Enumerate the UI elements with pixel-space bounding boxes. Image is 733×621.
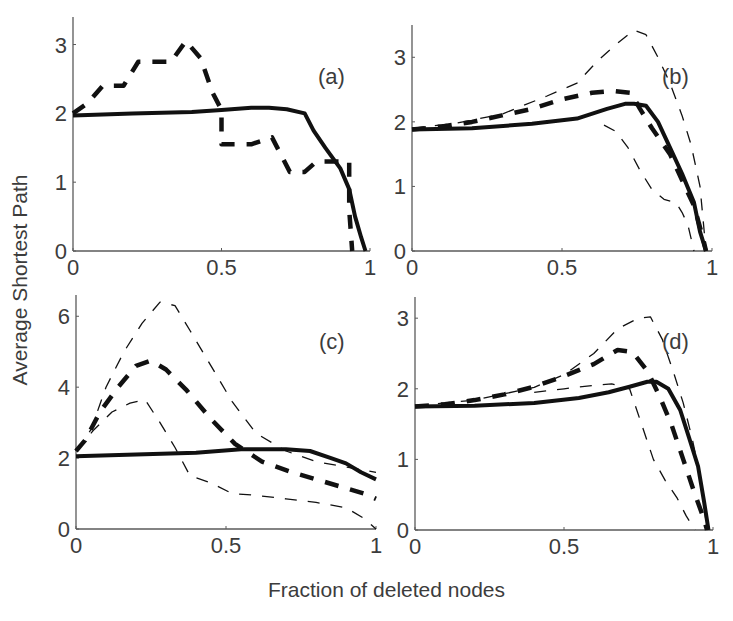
y-tick-label: 3 xyxy=(55,33,67,58)
x-tick-label: 1 xyxy=(364,255,376,280)
panel-annotation: (d) xyxy=(662,329,689,354)
y-tick-label: 2 xyxy=(55,101,67,126)
x-tick-label: 1 xyxy=(706,255,718,280)
x-tick-label: 1 xyxy=(707,534,719,559)
y-tick-label: 3 xyxy=(394,45,406,70)
y-tick-label: 1 xyxy=(55,170,67,195)
x-tick-label: 0.5 xyxy=(547,255,578,280)
y-axis-label: Average Shortest Path xyxy=(8,175,32,386)
series-dashed-lower xyxy=(604,125,694,251)
x-axis-label: Fraction of deleted nodes xyxy=(0,578,733,602)
y-tick-label: 3 xyxy=(397,306,409,331)
series-solid xyxy=(412,104,706,251)
x-tick-label: 0.5 xyxy=(549,534,580,559)
x-tick-label: 0 xyxy=(67,255,79,280)
y-tick-label: 2 xyxy=(394,110,406,135)
y-tick-label: 2 xyxy=(397,377,409,402)
y-tick-label: 0 xyxy=(58,517,70,542)
figure: 012300.51(a)012300.51(b)024600.51(c)0123… xyxy=(0,0,733,621)
series-dashed-mean xyxy=(412,91,706,251)
x-tick-label: 0 xyxy=(409,534,421,559)
panel-b: 012300.51(b) xyxy=(394,25,718,280)
y-tick-label: 4 xyxy=(58,375,70,400)
x-tick-label: 0 xyxy=(70,533,82,558)
panel-annotation: (c) xyxy=(319,329,345,354)
panel-c: 024600.51(c) xyxy=(58,295,382,558)
series-dashed xyxy=(73,41,352,251)
chart-canvas: 012300.51(a)012300.51(b)024600.51(c)0123… xyxy=(0,0,733,621)
panel-d: 012300.51(d) xyxy=(397,297,719,559)
x-tick-label: 0.5 xyxy=(211,533,242,558)
y-tick-label: 0 xyxy=(55,239,67,264)
y-tick-label: 0 xyxy=(394,239,406,264)
y-tick-label: 1 xyxy=(397,447,409,472)
y-tick-label: 1 xyxy=(394,174,406,199)
x-tick-label: 0 xyxy=(406,255,418,280)
y-tick-label: 2 xyxy=(58,446,70,471)
y-tick-label: 0 xyxy=(397,518,409,543)
series-dashed-mean xyxy=(415,350,707,530)
y-tick-label: 6 xyxy=(58,304,70,329)
panel-annotation: (a) xyxy=(318,64,345,89)
x-tick-label: 1 xyxy=(370,533,382,558)
panel-annotation: (b) xyxy=(662,64,689,89)
series-dashed-upper xyxy=(76,302,376,472)
panel-a: 012300.51(a) xyxy=(55,17,376,280)
x-tick-label: 0.5 xyxy=(206,255,237,280)
series-dashed-mean xyxy=(76,361,376,499)
series-dashed-lower xyxy=(534,384,695,530)
